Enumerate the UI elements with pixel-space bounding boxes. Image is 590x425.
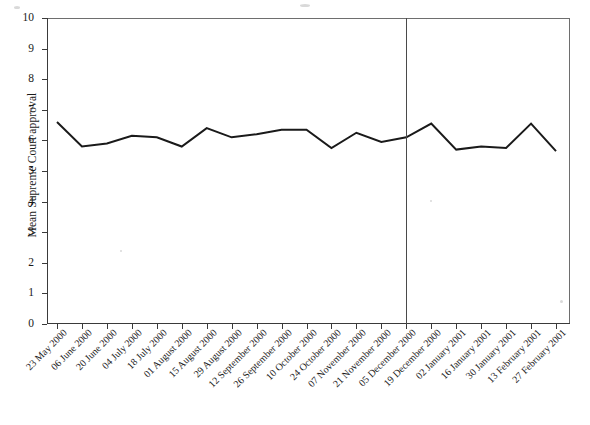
vertical-reference-line (406, 18, 407, 324)
y-tick-label: 8 (28, 73, 34, 85)
x-tick-mark (182, 324, 183, 329)
scan-artifact (300, 4, 310, 7)
x-tick-mark (132, 324, 133, 329)
line-chart: Mean Supreme Court approval 012345678910… (0, 0, 590, 425)
y-tick-label: 7 (28, 104, 34, 116)
y-tick-label: 9 (28, 43, 34, 55)
y-tick-label: 0 (28, 318, 34, 330)
scan-artifact (14, 6, 20, 9)
x-tick-mark (207, 324, 208, 329)
y-tick-label: 4 (28, 196, 34, 208)
plot-area: 012345678910 23 May 200006 June 200020 J… (47, 18, 570, 324)
series-line (47, 18, 570, 324)
x-tick-mark (157, 324, 158, 329)
y-tick-label: 2 (28, 257, 34, 269)
y-tick-label: 1 (28, 288, 34, 300)
scan-artifact (430, 200, 432, 202)
x-tick-mark (107, 324, 108, 329)
x-tick-mark (232, 324, 233, 329)
x-tick-mark (307, 324, 308, 329)
scan-artifact (120, 250, 122, 252)
x-tick-mark (282, 324, 283, 329)
y-tick-mark: 0 (42, 324, 47, 325)
y-tick-label: 3 (28, 226, 34, 238)
y-tick-label: 10 (23, 12, 35, 24)
x-tick-mark (257, 324, 258, 329)
y-tick-label: 5 (28, 165, 34, 177)
y-tick-label: 6 (28, 135, 34, 147)
scan-artifact (560, 300, 563, 303)
